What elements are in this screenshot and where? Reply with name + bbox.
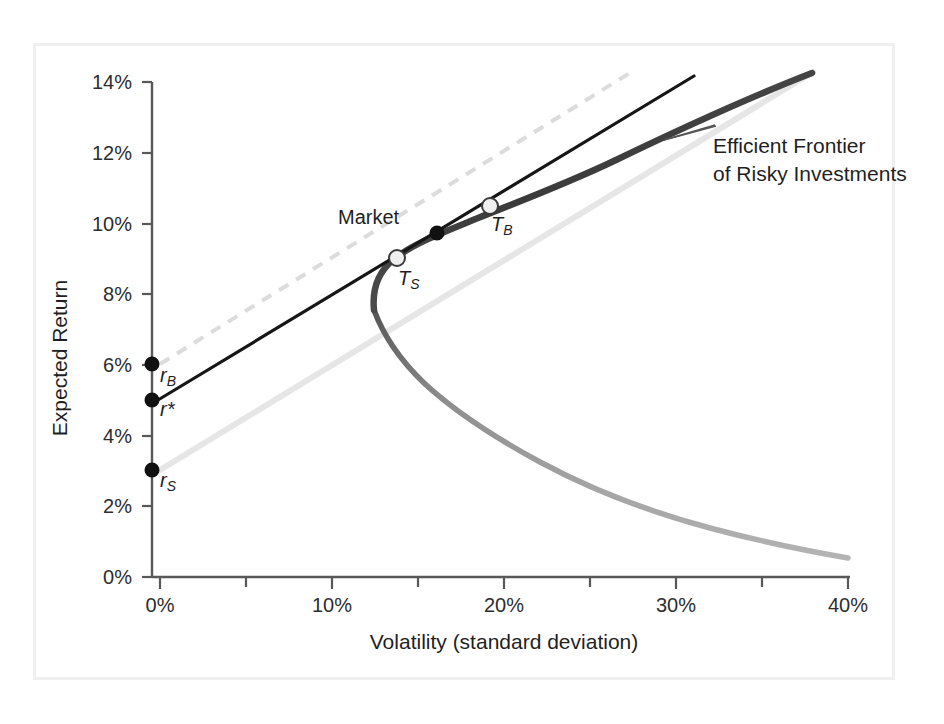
data-label-tb-base: T xyxy=(491,213,503,235)
data-label-rs: rS xyxy=(160,469,176,492)
point-marker-market xyxy=(430,226,445,241)
y-tick-label-14: 14% xyxy=(60,71,132,94)
frontier-annotation: Efficient Frontier of Risky Investments xyxy=(713,132,907,188)
x-tick-label-30: 30% xyxy=(656,594,696,617)
data-label-rb: rB xyxy=(160,364,176,387)
data-label-rs-base: r xyxy=(160,469,167,491)
x-tick-label-40: 40% xyxy=(828,594,868,617)
y-axis-ticks xyxy=(142,82,152,577)
y-axis-title: Expected Return xyxy=(48,280,72,436)
figure-container: 14% 12% 10% 8% 6% 4% 2% 0% 0% 10% 20% 30… xyxy=(0,0,944,724)
y-tick-label-0: 0% xyxy=(60,566,132,589)
x-tick-label-0: 0% xyxy=(146,594,175,617)
point-marker-rstar xyxy=(145,393,160,408)
data-label-rb-base: r xyxy=(160,364,167,386)
point-marker-rs xyxy=(145,463,160,478)
frontier-lower-branch xyxy=(374,310,848,558)
data-label-ts: TS xyxy=(398,267,420,290)
data-label-tb: TB xyxy=(491,213,513,236)
frontier-annotation-line1: Efficient Frontier xyxy=(713,132,907,160)
y-tick-label-10: 10% xyxy=(60,213,132,236)
x-axis-title: Volatility (standard deviation) xyxy=(370,630,638,654)
point-marker-rb xyxy=(145,357,160,372)
x-tick-label-20: 20% xyxy=(484,594,524,617)
chart-plot-area xyxy=(0,0,944,724)
x-tick-label-10: 10% xyxy=(312,594,352,617)
data-label-rb-sub: B xyxy=(167,373,176,389)
capital-market-line xyxy=(158,76,694,400)
data-label-market: Market xyxy=(338,206,399,229)
point-marker-tb xyxy=(482,198,498,214)
y-tick-label-12: 12% xyxy=(60,142,132,165)
data-label-ts-sub: S xyxy=(410,276,419,292)
data-label-ts-base: T xyxy=(398,267,410,289)
frontier-annotation-line2: of Risky Investments xyxy=(713,160,907,188)
x-axis-ticks xyxy=(160,577,848,589)
data-label-rs-sub: S xyxy=(167,478,176,494)
data-label-tb-sub: B xyxy=(503,222,512,238)
data-label-rstar: r* xyxy=(160,398,174,421)
point-marker-ts xyxy=(389,250,405,266)
y-tick-label-2: 2% xyxy=(60,495,132,518)
data-label-rstar-base: r* xyxy=(160,398,174,420)
